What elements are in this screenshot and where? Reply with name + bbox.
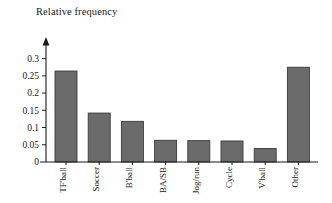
x-axis-category-label: V'ball (257, 167, 267, 189)
bar (287, 67, 309, 162)
bar-chart: Relative frequency 00.050.10.150.20.250.… (0, 0, 332, 203)
x-axis-category-label: B'ball (124, 167, 134, 189)
bar (155, 140, 177, 162)
y-axis-arrow-icon (43, 37, 50, 46)
x-axis-category-label: Soccer (91, 167, 101, 192)
y-axis-tick-label: 0.05 (22, 140, 39, 150)
y-axis-tick-label: 0.1 (27, 123, 39, 133)
chart-plot-area: 00.050.10.150.20.250.3 TF'ballSoccerB'ba… (0, 0, 332, 203)
y-axis-ticks (42, 59, 46, 145)
y-axis-tick-label: 0.2 (27, 88, 39, 98)
x-axis-category-label: TF'ball (58, 167, 68, 193)
bar (188, 141, 210, 162)
y-axis-tick-label: 0.15 (22, 106, 39, 116)
bar (254, 149, 276, 162)
x-axis-category-label: Cycle (224, 167, 234, 188)
x-axis-category-labels: TF'ballSoccerB'ballBA/SBJog/runCycleV'ba… (58, 162, 300, 194)
bars-group (55, 67, 309, 162)
x-axis-category-label: Jog/run (191, 167, 201, 195)
bar (121, 121, 143, 162)
chart-axes (40, 37, 318, 162)
bar (88, 113, 110, 162)
y-axis-tick-label: 0 (34, 157, 39, 167)
y-axis-tick-label: 0.25 (22, 71, 39, 81)
x-axis-category-label: BA/SB (158, 167, 168, 193)
x-axis-category-label: Other (290, 167, 300, 188)
y-axis-tick-label: 0.3 (27, 54, 39, 64)
y-axis-tick-labels: 00.050.10.150.20.250.3 (22, 54, 39, 167)
bar (221, 141, 243, 162)
bar (55, 71, 77, 162)
